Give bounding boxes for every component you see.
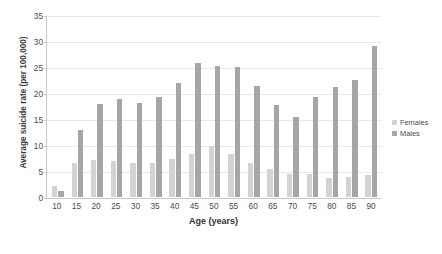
y-axis-tick-label: 20 — [34, 89, 43, 99]
bar-females-20 — [91, 160, 96, 197]
bar-females-50 — [209, 146, 214, 197]
x-axis-tick-label: 85 — [342, 201, 362, 211]
bar-males-60 — [254, 86, 259, 197]
x-axis-tick-label: 55 — [224, 201, 244, 211]
legend-entry-females: Females — [392, 117, 428, 128]
bar-group — [185, 16, 205, 197]
plot-area: 05101520253035 — [46, 16, 381, 199]
bar-group — [107, 16, 127, 197]
bar-group — [244, 16, 264, 197]
x-axis-ticks: 1015202530354045505560657075808590 — [47, 201, 381, 211]
chart-legend: FemalesMales — [392, 117, 428, 139]
bar-males-90 — [372, 46, 377, 197]
bar-females-90 — [365, 175, 370, 197]
bar-females-75 — [307, 174, 312, 197]
bar-males-50 — [215, 66, 220, 197]
bar-males-45 — [195, 63, 200, 197]
bar-males-30 — [137, 103, 142, 197]
x-axis-tick-label: 45 — [184, 201, 204, 211]
x-axis-tick-label: 80 — [322, 201, 342, 211]
bar-group — [87, 16, 107, 197]
legend-swatch-icon — [392, 131, 397, 136]
x-axis-tick-label: 65 — [263, 201, 283, 211]
y-axis-tick-mark — [44, 120, 47, 121]
bar-group — [48, 16, 68, 197]
bar-males-10 — [58, 191, 63, 197]
bar-group — [362, 16, 382, 197]
y-axis-tick-mark — [44, 42, 47, 43]
y-axis-tick-mark — [44, 68, 47, 69]
bar-females-10 — [52, 186, 57, 197]
x-axis-tick-label: 30 — [126, 201, 146, 211]
bar-males-65 — [274, 105, 279, 197]
bar-females-55 — [228, 154, 233, 197]
bar-group — [264, 16, 284, 197]
x-axis-tick-label: 40 — [165, 201, 185, 211]
x-axis-tick-label: 35 — [145, 201, 165, 211]
bar-females-80 — [326, 178, 331, 197]
x-axis-tick-label: 60 — [243, 201, 263, 211]
bar-males-80 — [333, 87, 338, 197]
bar-group — [283, 16, 303, 197]
y-axis-tick-label: 35 — [34, 11, 43, 21]
bar-group — [166, 16, 186, 197]
legend-swatch-icon — [392, 120, 397, 125]
bar-females-70 — [287, 174, 292, 197]
bar-group — [224, 16, 244, 197]
x-axis-tick-label: 10 — [47, 201, 67, 211]
bar-males-75 — [313, 97, 318, 197]
y-axis-tick-mark — [44, 16, 47, 17]
legend-label: Females — [400, 118, 428, 127]
bar-males-35 — [156, 97, 161, 197]
bar-females-40 — [169, 159, 174, 197]
bar-males-20 — [97, 104, 102, 197]
x-axis-tick-label: 50 — [204, 201, 224, 211]
y-axis-title: Average suicide rate (per 100,000) — [19, 18, 28, 188]
plot-frame: 05101520253035 — [46, 16, 381, 199]
y-axis-tick-mark — [44, 94, 47, 95]
bar-females-15 — [72, 163, 77, 197]
bar-group — [126, 16, 146, 197]
bar-females-65 — [267, 169, 272, 197]
legend-label: Males — [400, 129, 420, 138]
x-axis-tick-label: 25 — [106, 201, 126, 211]
bar-group — [342, 16, 362, 197]
bar-males-25 — [117, 99, 122, 197]
bar-females-25 — [111, 161, 116, 197]
y-axis-tick-label: 15 — [34, 115, 43, 125]
bar-group — [68, 16, 88, 197]
bar-males-55 — [235, 67, 240, 197]
bar-males-85 — [352, 80, 357, 197]
bar-chart: Average suicide rate (per 100,000) 05101… — [0, 0, 442, 254]
bar-group — [205, 16, 225, 197]
bar-females-45 — [189, 154, 194, 197]
y-axis-tick-label: 25 — [34, 63, 43, 73]
y-axis-tick-mark — [44, 146, 47, 147]
x-axis-tick-label: 20 — [86, 201, 106, 211]
x-axis-title: Age (years) — [46, 216, 381, 226]
bar-males-70 — [293, 117, 298, 197]
y-axis-tick-label: 30 — [34, 37, 43, 47]
x-axis-tick-label: 90 — [361, 201, 381, 211]
bar-group — [303, 16, 323, 197]
bar-males-40 — [176, 83, 181, 197]
bar-males-15 — [78, 130, 83, 197]
x-axis-tick-label: 15 — [67, 201, 87, 211]
x-axis-tick-label: 75 — [302, 201, 322, 211]
y-axis-tick-mark — [44, 198, 47, 199]
x-axis-tick-label: 70 — [283, 201, 303, 211]
y-axis-tick-mark — [44, 172, 47, 173]
bar-females-60 — [248, 163, 253, 197]
bar-group — [322, 16, 342, 197]
y-axis-tick-label: 0 — [38, 193, 43, 203]
legend-entry-males: Males — [392, 128, 428, 139]
bar-females-85 — [346, 177, 351, 197]
bar-group — [146, 16, 166, 197]
bars-layer — [48, 16, 381, 197]
y-axis-tick-label: 10 — [34, 141, 43, 151]
bar-females-35 — [150, 163, 155, 197]
bar-females-30 — [130, 163, 135, 197]
y-axis-tick-label: 5 — [38, 167, 43, 177]
